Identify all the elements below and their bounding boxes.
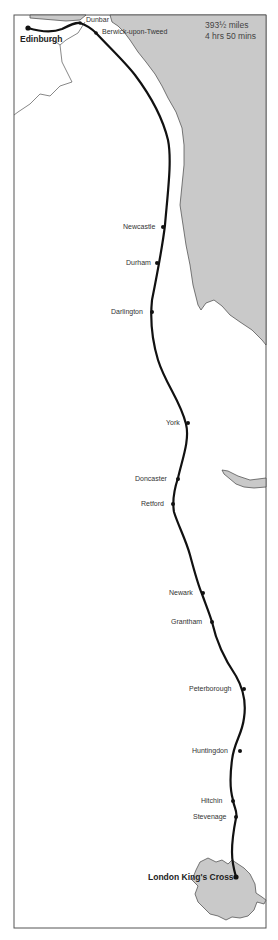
label-darlington[interactable]: Darlington [111,308,143,316]
label-york[interactable]: York [166,419,180,427]
station-dot-peterborough[interactable] [242,687,246,691]
label-newark[interactable]: Newark [169,589,193,597]
station-dot-doncaster[interactable] [176,477,180,481]
station-dot-retford[interactable] [171,502,175,506]
station-dot-edinburgh[interactable] [25,25,30,30]
station-dot-hitchin[interactable] [231,799,235,803]
station-dot-durham[interactable] [155,261,159,265]
station-dot-stevenage[interactable] [234,815,238,819]
station-dot-grantham[interactable] [210,620,214,624]
station-dot-newark[interactable] [201,591,205,595]
station-dot-huntingdon[interactable] [238,749,242,753]
label-newcastle[interactable]: Newcastle [123,223,155,231]
station-dot-berwick[interactable] [94,31,98,35]
station-dot-darlington[interactable] [150,310,154,314]
label-retford[interactable]: Retford [141,500,164,508]
station-dot-york[interactable] [186,421,190,425]
label-stevenage[interactable]: Stevenage [193,813,226,821]
journey-info: 393½ miles 4 hrs 50 mins [205,20,256,42]
journey-time-text: 4 hrs 50 mins [205,31,256,42]
distance-text: 393½ miles [205,20,256,31]
label-dunbar[interactable]: Dunbar [86,16,109,24]
label-hitchin[interactable]: Hitchin [201,797,222,805]
label-london-kings-cross[interactable]: London King's Cross [148,873,234,881]
label-berwick[interactable]: Berwick-upon-Tweed [102,28,167,36]
label-edinburgh[interactable]: Edinburgh [20,35,63,43]
label-grantham[interactable]: Grantham [171,618,202,626]
station-dot-london-kings-cross[interactable] [233,874,238,879]
route-map [0,0,278,940]
label-peterborough[interactable]: Peterborough [189,685,231,693]
label-durham[interactable]: Durham [126,259,151,267]
station-dot-dunbar[interactable] [78,21,82,25]
label-doncaster[interactable]: Doncaster [135,475,167,483]
label-huntingdon[interactable]: Huntingdon [192,747,228,755]
station-dot-newcastle[interactable] [161,225,165,229]
